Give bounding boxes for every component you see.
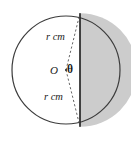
shaded-segment (80, 13, 131, 127)
radius-label-bottom: r cm (44, 92, 63, 103)
circle-diagram-svg (0, 0, 131, 143)
radius-upper-dashed (66, 13, 80, 70)
radius-lower-dashed (66, 70, 80, 127)
geometry-figure: r cm r cm O θ (0, 0, 131, 143)
angle-label-theta: θ (67, 64, 73, 76)
centre-label-o: O (50, 65, 58, 76)
radius-label-top: r cm (46, 32, 65, 43)
